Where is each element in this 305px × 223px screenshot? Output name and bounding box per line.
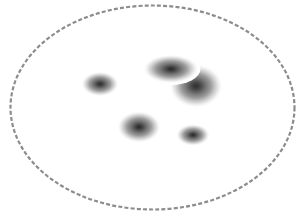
blob-left xyxy=(81,72,119,97)
diagram-canvas xyxy=(0,0,305,223)
blob-top-center xyxy=(143,55,199,84)
dish-boundary-ellipse xyxy=(11,6,295,210)
blob-bottom-right xyxy=(176,124,210,146)
blob-layer xyxy=(81,53,223,146)
diagram-svg xyxy=(0,0,305,223)
blob-bottom-left xyxy=(117,111,161,143)
